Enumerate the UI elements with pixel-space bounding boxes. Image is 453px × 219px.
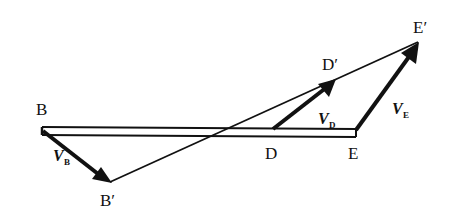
label-vb-subscript: B [64, 157, 70, 167]
label-d: D [265, 144, 277, 163]
label-b: B [36, 100, 47, 119]
label-ve-subscript: E [403, 110, 409, 120]
label-ve: V E [392, 100, 409, 120]
line-bprime-eprime [110, 42, 418, 182]
bar-bottom-edge [42, 135, 356, 137]
label-e: E [348, 144, 358, 163]
rigid-bar [42, 127, 356, 137]
label-vd-subscript: D [329, 120, 336, 130]
label-vd: V D [318, 110, 336, 130]
velocity-diagram: B B′ D D′ E E′ V B V D V E [0, 0, 453, 219]
label-e-prime: E′ [413, 18, 427, 37]
bar-top-edge [42, 127, 356, 129]
label-b-prime: B′ [100, 191, 115, 210]
label-d-prime: D′ [322, 55, 338, 74]
vector-vb-shaft [43, 131, 102, 177]
